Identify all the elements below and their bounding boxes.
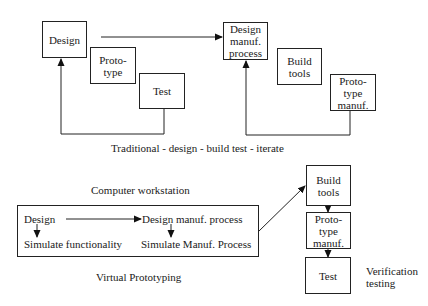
vp-prototype-manuf-label: Proto- type manuf.	[313, 213, 344, 249]
prototype-label: Proto- type	[99, 54, 127, 78]
virtual-caption: Virtual Prototyping	[96, 271, 181, 283]
ws-simulate-functionality-label: Simulate functionality	[24, 238, 122, 250]
vp-test-label: Test	[319, 270, 337, 282]
prototype-box: Proto- type	[90, 47, 136, 84]
design-manuf-process-box: Design manuf. process	[223, 22, 268, 60]
test-label: Test	[153, 85, 171, 97]
vp-build-tools-label: Build tools	[316, 174, 340, 198]
prototype-manuf-box: Proto- type manuf.	[330, 74, 376, 111]
vp-build-tools-box: Build tools	[306, 165, 351, 206]
verification-testing-label: Verification testing	[366, 265, 418, 289]
ws-design-label: Design	[24, 213, 55, 225]
build-tools-box: Build tools	[277, 48, 322, 85]
design-label: Design	[49, 34, 80, 46]
traditional-caption: Traditional - design - build test - iter…	[111, 142, 284, 154]
build-tools-label: Build tools	[287, 55, 311, 79]
design-box: Design	[42, 21, 87, 58]
ws-design-manuf-label: Design manuf. process	[142, 213, 243, 225]
vp-test-box: Test	[305, 257, 351, 294]
workstation-title: Computer workstation	[91, 184, 190, 196]
ws-simulate-manuf-label: Simulate Manuf. Process	[141, 238, 251, 250]
prototype-manuf-label: Proto- type manuf.	[338, 75, 369, 111]
vp-prototype-manuf-box: Proto- type manuf.	[306, 212, 351, 249]
design-manuf-process-label: Design manuf. process	[229, 23, 262, 59]
test-box: Test	[139, 73, 185, 109]
